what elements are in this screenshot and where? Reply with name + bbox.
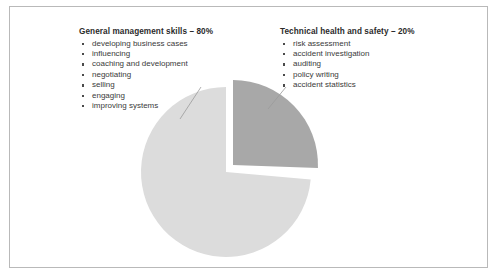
legend-title-general-management: General management skills – 80% bbox=[79, 27, 249, 36]
bullet-icon bbox=[283, 63, 285, 65]
legend-list-technical-health-safety: risk assessmentaccident investigationaud… bbox=[280, 39, 450, 91]
legend-technical-health-safety: Technical health and safety – 20% risk a… bbox=[280, 27, 450, 91]
bullet-icon bbox=[283, 53, 285, 55]
legend-general-management-item-label: improving systems bbox=[92, 101, 158, 110]
legend-technical-health-safety-item: risk assessment bbox=[280, 39, 450, 49]
legend-technical-health-safety-item-label: risk assessment bbox=[293, 39, 350, 48]
legend-general-management-item-label: negotiating bbox=[92, 70, 131, 79]
legend-technical-health-safety-item: policy writing bbox=[280, 70, 450, 80]
bullet-icon bbox=[82, 53, 84, 55]
legend-general-management-item: coaching and development bbox=[79, 59, 249, 69]
legend-general-management-item-label: selling bbox=[92, 80, 115, 89]
legend-general-management-item: influencing bbox=[79, 49, 249, 59]
legend-general-management-item-label: developing business cases bbox=[92, 39, 188, 48]
legend-general-management-item: improving systems bbox=[79, 101, 249, 111]
legend-general-management-item: developing business cases bbox=[79, 39, 249, 49]
bullet-icon bbox=[82, 105, 84, 107]
bullet-icon bbox=[82, 74, 84, 76]
legend-general-management-item: negotiating bbox=[79, 70, 249, 80]
bullet-icon bbox=[283, 43, 285, 45]
legend-general-management-item-label: coaching and development bbox=[92, 59, 188, 68]
legend-list-general-management: developing business casesinfluencingcoac… bbox=[79, 39, 249, 112]
legend-general-management-item: engaging bbox=[79, 91, 249, 101]
legend-technical-health-safety-item-label: accident investigation bbox=[293, 49, 370, 58]
legend-technical-health-safety-item: accident investigation bbox=[280, 49, 450, 59]
legend-technical-health-safety-item: auditing bbox=[280, 59, 450, 69]
legend-technical-health-safety-item-label: auditing bbox=[293, 59, 321, 68]
slide-canvas: General management skills – 80% developi… bbox=[0, 0, 496, 280]
legend-title-technical-health-safety: Technical health and safety – 20% bbox=[280, 27, 450, 36]
legend-general-management: General management skills – 80% developi… bbox=[79, 27, 249, 111]
legend-general-management-item: selling bbox=[79, 80, 249, 90]
bullet-icon bbox=[82, 63, 84, 65]
legend-technical-health-safety-item-label: policy writing bbox=[293, 70, 339, 79]
legend-technical-health-safety-item: accident statistics bbox=[280, 80, 450, 90]
legend-general-management-item-label: influencing bbox=[92, 49, 130, 58]
bullet-icon bbox=[82, 95, 84, 97]
bullet-icon bbox=[283, 84, 285, 86]
bullet-icon bbox=[82, 43, 84, 45]
legend-technical-health-safety-item-label: accident statistics bbox=[293, 80, 356, 89]
bullet-icon bbox=[82, 84, 84, 86]
bullet-icon bbox=[283, 74, 285, 76]
legend-general-management-item-label: engaging bbox=[92, 91, 125, 100]
